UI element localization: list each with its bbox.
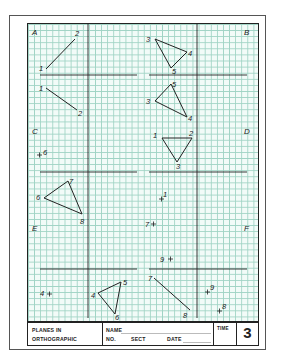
label-f-7: 7: [148, 274, 153, 283]
label-e-6: 6: [115, 313, 120, 322]
title-block-student-info: NAME NO. SECT DATE: [103, 323, 214, 345]
triangle-b-front: [155, 84, 187, 117]
title-block: PLANES IN ORTHOGRAPHIC NAME NO. SECT DAT…: [27, 322, 259, 346]
drawing-layer: A B C D E F 1 2 1 2 3 4 5 5 3 4 1 2 3 1: [0, 0, 281, 362]
no-label: NO.: [106, 336, 116, 342]
point-labels: 1 2 1 2 3 4 5 5 3 4 1 2 3 1 6 7 6 8 7 9 …: [36, 29, 227, 322]
topic-line-2: ORTHOGRAPHIC: [32, 336, 77, 342]
line-a-front: [46, 88, 77, 110]
triangle-d: [162, 138, 192, 162]
problem-letters: A B C D E F: [31, 28, 250, 233]
label-b-3-top: 3: [146, 35, 151, 44]
label-f-8: 8: [183, 311, 188, 320]
label-c-7: 7: [69, 177, 74, 186]
label-c-6: 6: [36, 193, 41, 202]
label-c-6-point: 6: [43, 148, 48, 157]
label-f-8-side: 8: [222, 302, 227, 311]
time-label: TIME: [217, 326, 229, 331]
label-f-9-side: 9: [210, 283, 215, 292]
label-b-4-front: 4: [188, 114, 192, 123]
name-field-rule[interactable]: [121, 333, 211, 334]
title-block-sheet-number: 3: [237, 323, 258, 345]
label-c-8: 8: [80, 217, 85, 226]
label-a: A: [31, 28, 37, 37]
label-e-4-point: 4: [40, 289, 44, 298]
triangle-c: [44, 181, 82, 214]
label-a-1-front: 1: [39, 84, 43, 93]
label-d-1: 1: [153, 131, 157, 140]
label-b-4-top: 4: [188, 49, 192, 58]
label-d-2: 2: [188, 129, 194, 138]
triangle-e: [98, 282, 121, 314]
title-block-time: TIME: [214, 323, 237, 345]
cross-c-6: [37, 153, 42, 158]
sheet-number: 3: [237, 324, 258, 341]
title-block-topic: PLANES IN ORTHOGRAPHIC: [28, 323, 103, 345]
label-e: E: [32, 224, 38, 233]
label-d-3: 3: [176, 162, 181, 171]
line-a-top: [46, 39, 75, 69]
label-f-7-point: 7: [145, 220, 150, 229]
label-f-9-point: 9: [160, 255, 165, 264]
label-b-3-front: 3: [146, 97, 151, 106]
label-b: B: [244, 28, 250, 37]
cross-f-9-front: [168, 257, 173, 262]
date-field-rule[interactable]: [183, 342, 211, 343]
cross-f-7: [151, 222, 156, 227]
label-c: C: [32, 127, 38, 136]
label-e-5: 5: [123, 278, 128, 287]
label-d-1-point: 1: [163, 190, 167, 199]
label-d: D: [244, 127, 250, 136]
label-a-1-top: 1: [39, 64, 43, 73]
geometry: [44, 39, 192, 314]
label-b-5-front: 5: [172, 80, 177, 89]
triangle-b-top: [155, 39, 187, 68]
point-markers: [37, 153, 222, 314]
name-label: NAME: [106, 327, 122, 333]
label-f: F: [244, 224, 250, 233]
label-a-2-top: 2: [74, 29, 80, 38]
topic-line-1: PLANES IN: [32, 327, 61, 333]
cross-e-4: [47, 292, 52, 297]
label-e-4: 4: [91, 291, 95, 300]
worksheet-page: A B C D E F 1 2 1 2 3 4 5 5 3 4 1 2 3 1: [0, 0, 281, 362]
reference-lines: [40, 24, 247, 318]
label-a-2-front: 2: [77, 109, 83, 118]
line-f: [154, 278, 190, 310]
sect-label: SECT: [131, 336, 146, 342]
date-label: DATE: [167, 336, 182, 342]
